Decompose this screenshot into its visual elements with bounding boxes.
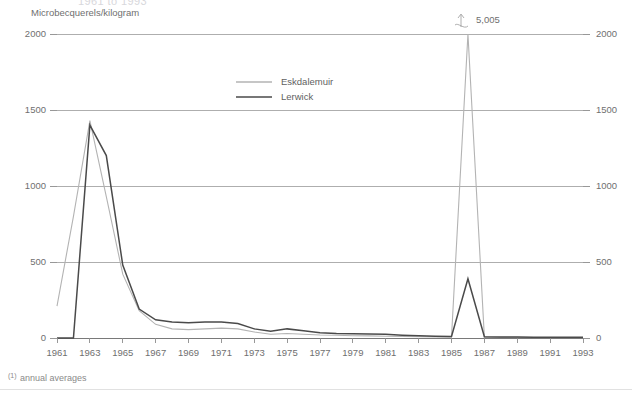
y-axis-unit-label: Microbecquerels/kilogram xyxy=(31,7,139,18)
y-tick-label-500-right: 500 xyxy=(596,256,612,267)
y-tick-label-0-left: 0 xyxy=(41,332,46,343)
x-tick-label-1989: 1989 xyxy=(507,347,528,358)
y-tick-label-1500-right: 1500 xyxy=(596,104,617,115)
x-tick-label-1971: 1971 xyxy=(211,347,232,358)
x-tick-label-1991: 1991 xyxy=(540,347,561,358)
footnote-marker: (1) xyxy=(8,372,17,380)
x-tick-label-1993: 1993 xyxy=(572,347,593,358)
x-tick-label-1977: 1977 xyxy=(309,347,330,358)
y-tick-label-1000-right: 1000 xyxy=(596,180,617,191)
x-tick-label-1983: 1983 xyxy=(408,347,429,358)
y-tick-label-1000-left: 1000 xyxy=(25,180,46,191)
legend-label-lerwick: Lerwick xyxy=(281,91,313,102)
x-tick-label-1973: 1973 xyxy=(244,347,265,358)
y-tick-label-1500-left: 1500 xyxy=(25,104,46,115)
x-tick-label-1987: 1987 xyxy=(474,347,495,358)
y-tick-label-2000-right: 2000 xyxy=(596,28,617,39)
annotation-value-label: 5,005 xyxy=(476,14,500,25)
y-tick-label-500-left: 500 xyxy=(30,256,46,267)
chart-title: 1961 to 1993 xyxy=(78,0,147,7)
y-tick-label-0-right: 0 xyxy=(596,332,601,343)
y-tick-label-2000-left: 2000 xyxy=(25,28,46,39)
x-tick-label-1963: 1963 xyxy=(79,347,100,358)
x-tick-label-1965: 1965 xyxy=(112,347,133,358)
radioactivity-line-chart: 1961 to 1993 Microbecquerels/kilogram 20… xyxy=(0,0,632,397)
x-tick-label-1975: 1975 xyxy=(277,347,298,358)
x-tick-label-1969: 1969 xyxy=(178,347,199,358)
x-tick-label-1981: 1981 xyxy=(375,347,396,358)
x-tick-label-1967: 1967 xyxy=(145,347,166,358)
legend-label-eskdalemuir: Eskdalemuir xyxy=(281,76,333,87)
x-tick-label-1961: 1961 xyxy=(46,347,67,358)
footnote-text: annual averages xyxy=(20,373,87,383)
x-tick-label-1985: 1985 xyxy=(441,347,462,358)
x-tick-label-1979: 1979 xyxy=(342,347,363,358)
